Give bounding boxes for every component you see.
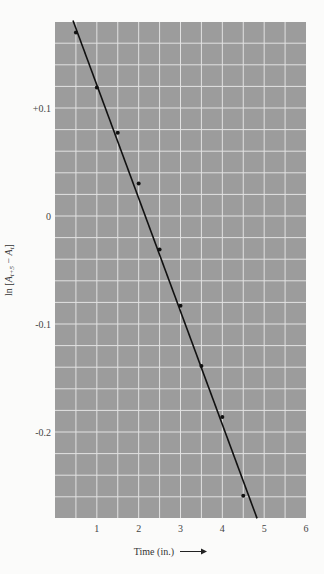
data-point: [241, 494, 245, 498]
data-point: [158, 247, 162, 251]
y-axis-label: ln [At+5 − At]: [3, 244, 16, 296]
data-point: [179, 304, 183, 308]
y-tick-label: -0.2: [35, 427, 51, 438]
data-point: [116, 131, 120, 135]
y-tick-label: +0.1: [33, 103, 51, 114]
x-axis-ticks: 123456: [94, 523, 308, 534]
x-tick-label: 5: [262, 523, 267, 534]
x-tick-label: 3: [178, 523, 183, 534]
y-tick-label: -0.1: [35, 319, 51, 330]
y-tick-label: 0: [46, 211, 51, 222]
data-point: [95, 85, 99, 89]
x-axis-label: Time (in.): [134, 546, 174, 558]
data-point: [199, 364, 203, 368]
arrow-head-icon: [201, 549, 207, 555]
data-point: [74, 30, 78, 34]
x-tick-label: 4: [220, 523, 225, 534]
y-axis-ticks: +0.10-0.1-0.2: [33, 103, 51, 438]
x-axis-title: Time (in.): [134, 546, 207, 558]
chart: +0.10-0.1-0.2 123456 ln [At+5 − At] Time…: [0, 0, 324, 574]
x-tick-label: 6: [304, 523, 309, 534]
x-tick-label: 2: [136, 523, 141, 534]
data-point: [137, 182, 141, 186]
data-point: [220, 415, 224, 419]
x-tick-label: 1: [94, 523, 99, 534]
